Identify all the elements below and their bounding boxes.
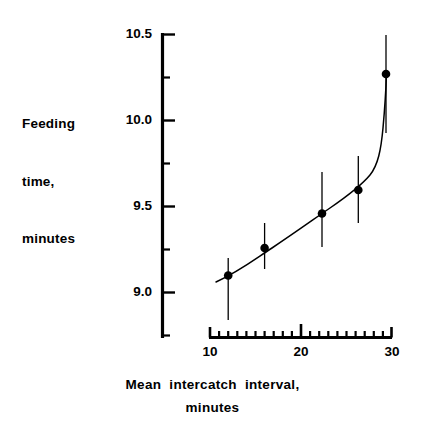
x-tick-label-10: 10 (190, 344, 230, 359)
y-tick-label-10-5: 10.5 (92, 26, 152, 41)
data-point (318, 209, 327, 218)
chart-figure: 10.5 10.0 9.5 9.0 10 20 30 Feeding time,… (0, 0, 425, 433)
data-point (382, 70, 391, 79)
y-tick-label-9-0: 9.0 (92, 284, 152, 299)
y-axis-title: Feeding time, minutes (22, 76, 75, 287)
data-point (260, 244, 269, 253)
y-tick-label-9-5: 9.5 (92, 198, 152, 213)
data-point-markers (224, 70, 390, 280)
x-axis-title-line-2: minutes (0, 398, 425, 417)
data-point (224, 271, 233, 280)
y-axis-title-line-1: Feeding (22, 114, 75, 133)
x-tick-label-20: 20 (281, 344, 321, 359)
y-axis-title-line-2: time, (22, 172, 75, 191)
x-tick-label-30: 30 (372, 344, 412, 359)
y-axis-title-line-3: minutes (22, 229, 75, 248)
data-point (354, 186, 363, 195)
x-axis-title-line-1: Mean intercatch interval, (0, 375, 425, 394)
fitted-curve (216, 74, 387, 282)
error-bars (228, 35, 386, 320)
y-tick-label-10-0: 10.0 (92, 112, 152, 127)
